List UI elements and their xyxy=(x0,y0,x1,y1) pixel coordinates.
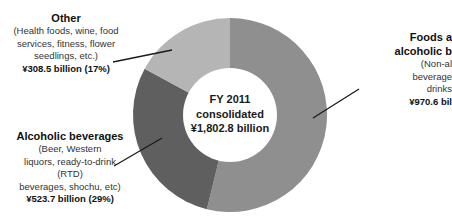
segment-label-other: Other (Health foods, wine, food services… xyxy=(2,11,130,75)
center-line-2: consolidated xyxy=(180,107,280,122)
center-line-3: ¥1,802.8 billion xyxy=(180,121,280,136)
label-alcoholic-desc-4: beverages, shochu, etc) xyxy=(2,181,138,194)
label-alcoholic-desc-3: (RTD) xyxy=(2,168,138,181)
label-alcoholic-desc-2: liquors, ready-to-drink xyxy=(2,156,138,169)
label-foods-title-2: alcoholic b xyxy=(372,44,452,58)
label-other-value: ¥308.5 billion (17%) xyxy=(2,63,130,76)
label-foods-value: ¥970.6 bil xyxy=(372,96,452,109)
segment-label-foods: Foods a alcoholic b (Non-al beverage dri… xyxy=(372,30,452,108)
label-foods-desc-2: beverage xyxy=(372,71,452,84)
label-alcoholic-value: ¥523.7 billion (29%) xyxy=(2,193,138,206)
label-other-desc-3: seedlings, etc.) xyxy=(2,50,130,63)
label-foods-desc-1: (Non-al xyxy=(372,58,452,71)
label-other-desc-1: (Health foods, wine, food xyxy=(2,25,130,38)
label-other-desc-2: services, fitness, flower xyxy=(2,38,130,51)
center-line-1: FY 2011 xyxy=(180,92,280,107)
label-alcoholic-desc-1: (Beer, Western xyxy=(2,143,138,156)
segment-label-alcoholic: Alcoholic beverages (Beer, Western liquo… xyxy=(2,129,138,206)
label-foods-title-1: Foods a xyxy=(372,30,452,44)
label-foods-desc-3: drinks xyxy=(372,83,452,96)
donut-center-label: FY 2011 consolidated ¥1,802.8 billion xyxy=(180,92,280,136)
label-other-title: Other xyxy=(2,11,130,25)
label-alcoholic-title: Alcoholic beverages xyxy=(2,129,138,143)
